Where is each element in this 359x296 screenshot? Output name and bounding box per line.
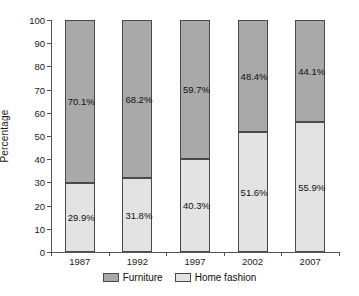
legend-item[interactable]: Home fashion <box>175 272 257 283</box>
bar-value-label: 48.4% <box>241 72 268 82</box>
y-tick <box>47 182 51 183</box>
x-axis-line <box>51 252 339 253</box>
bar-segment-home-fashion: 40.3% <box>180 159 210 252</box>
chart-legend: FurnitureHome fashion <box>0 272 359 283</box>
x-tick <box>224 252 225 256</box>
plot-area: 0102030405060708090100 19871992199720022… <box>51 20 339 252</box>
x-tick <box>166 252 167 256</box>
legend-swatch-home <box>175 273 191 282</box>
y-tick-label: 10 <box>34 223 45 234</box>
y-tick-label: 100 <box>29 15 45 26</box>
bar-value-label: 70.1% <box>68 97 95 107</box>
y-tick-label: 50 <box>34 131 45 142</box>
bar-segment-furniture: 59.7% <box>180 20 210 159</box>
x-tick <box>109 252 110 256</box>
bar-group: 40.3%59.7% <box>180 20 210 252</box>
y-tick <box>47 229 51 230</box>
y-tick <box>47 66 51 67</box>
y-axis-line <box>51 20 52 252</box>
bar-value-label: 51.6% <box>241 188 268 198</box>
bar-segment-furniture: 44.1% <box>295 20 325 122</box>
legend-label: Furniture <box>123 272 163 283</box>
bar-value-label: 59.7% <box>183 85 210 95</box>
bar-segment-home-fashion: 51.6% <box>238 132 268 252</box>
y-tick-label: 0 <box>40 247 45 258</box>
y-tick <box>47 113 51 114</box>
y-tick-label: 70 <box>34 84 45 95</box>
y-tick-label: 20 <box>34 200 45 211</box>
y-tick-label: 30 <box>34 177 45 188</box>
bar-segment-furniture: 70.1% <box>65 20 95 183</box>
bar-value-label: 44.1% <box>298 67 325 77</box>
bar-segment-home-fashion: 31.8% <box>122 178 152 252</box>
bar-segment-home-fashion: 29.9% <box>65 183 95 252</box>
bar-group: 31.8%68.2% <box>122 20 152 252</box>
legend-item[interactable]: Furniture <box>103 272 163 283</box>
bar-value-label: 29.9% <box>68 213 95 223</box>
y-tick <box>47 136 51 137</box>
x-tick-label: 2007 <box>300 256 321 267</box>
y-tick-label: 80 <box>34 61 45 72</box>
y-tick <box>47 90 51 91</box>
bar-value-label: 68.2% <box>125 95 152 105</box>
legend-swatch-furniture <box>103 273 119 282</box>
bar-value-label: 55.9% <box>298 183 325 193</box>
bar-group: 29.9%70.1% <box>65 20 95 252</box>
legend-label: Home fashion <box>195 272 257 283</box>
y-tick <box>47 43 51 44</box>
x-tick-label: 1992 <box>127 256 148 267</box>
x-tick-label: 1997 <box>184 256 205 267</box>
y-tick <box>47 159 51 160</box>
bar-segment-furniture: 68.2% <box>122 20 152 178</box>
x-tick <box>339 252 340 256</box>
y-tick-label: 40 <box>34 154 45 165</box>
bar-segment-furniture: 48.4% <box>238 20 268 132</box>
y-tick-label: 90 <box>34 38 45 49</box>
y-axis-title: Percentage <box>0 109 10 162</box>
bar-value-label: 40.3% <box>183 201 210 211</box>
y-tick-label: 60 <box>34 107 45 118</box>
x-tick-label: 1987 <box>69 256 90 267</box>
y-tick <box>47 20 51 21</box>
bar-group: 51.6%48.4% <box>238 20 268 252</box>
x-tick <box>51 252 52 256</box>
bar-segment-home-fashion: 55.9% <box>295 122 325 252</box>
y-tick <box>47 206 51 207</box>
bar-value-label: 31.8% <box>125 211 152 221</box>
stacked-bar-chart: Percentage 0102030405060708090100 198719… <box>0 0 359 296</box>
bar-group: 55.9%44.1% <box>295 20 325 252</box>
x-tick-label: 2002 <box>242 256 263 267</box>
x-tick <box>281 252 282 256</box>
